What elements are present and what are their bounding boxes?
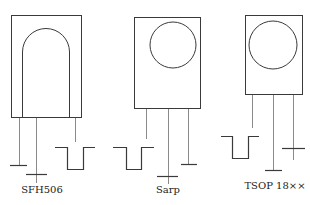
tsop18xx-component: [221, 16, 305, 171]
pulse-signal-icon: [113, 148, 154, 170]
tsop-circle-window: [249, 21, 297, 69]
sarp-body: [135, 18, 201, 109]
sfh506-label: SFH506: [21, 184, 63, 195]
tsop-body: [246, 16, 303, 95]
pulse-signal-icon: [55, 148, 95, 170]
sarp-circle-window: [150, 22, 196, 68]
tsop-label: TSOP 18××: [244, 180, 305, 191]
sfh506-component: [10, 16, 95, 184]
sarp-component: [113, 18, 201, 185]
sfh506-arch-window: [23, 29, 70, 118]
ir-receiver-pinout-diagram: [0, 0, 310, 205]
sarp-label: Sarp: [156, 184, 180, 195]
pulse-signal-icon: [221, 137, 259, 159]
